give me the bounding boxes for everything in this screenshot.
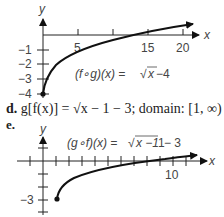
svg-text:√: √ — [140, 67, 147, 81]
start-point — [40, 91, 45, 96]
y-tick-neg2: −2 — [18, 57, 32, 71]
svg-text:x −1: x −1 — [135, 136, 159, 150]
y-tick-neg3: −3 — [20, 193, 34, 207]
start-point — [54, 196, 59, 201]
x-axis-label: x — [203, 28, 211, 42]
y-tick-neg3: −3 — [18, 72, 32, 86]
x-axis-label: x — [208, 154, 216, 168]
y-axis-label: y — [39, 122, 47, 136]
svg-text:√: √ — [128, 136, 135, 150]
y-axis-label: y — [38, 2, 46, 16]
equation-fog: (f∘g)(x) = — [75, 67, 125, 81]
svg-text:x: x — [147, 67, 155, 81]
part-d-text: g[f(x)] = √x − 1 − 3; domain: [1, ∞) — [17, 101, 221, 116]
x-tick-10: 10 — [165, 168, 179, 182]
x-tick-20: 20 — [176, 41, 190, 55]
svg-text:− 3: − 3 — [164, 136, 181, 150]
part-d-letter: d. — [6, 101, 17, 116]
y-tick-neg4: −4 — [18, 87, 32, 101]
x-tick-15: 15 — [141, 41, 155, 55]
svg-text:−4: −4 — [156, 67, 170, 81]
graph-fog: y x 5 15 20 −1 −2 −3 −4 (f∘g)(x) = √ x −… — [18, 2, 211, 101]
part-e-letter: e. — [6, 117, 15, 133]
equation-gof: (g∘f)(x) = — [67, 136, 117, 150]
y-tick-neg1: −1 — [18, 43, 32, 57]
graph-gof: y x 10 −3 — [17, 122, 216, 215]
part-d-answer: d. g[f(x)] = √x − 1 − 3; domain: [1, ∞) — [6, 101, 222, 117]
